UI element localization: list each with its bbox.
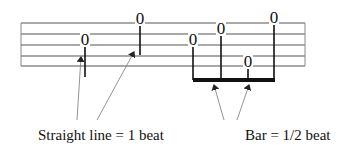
fret-number: 0	[244, 52, 253, 71]
fret-number: 0	[270, 8, 279, 27]
fret-number: 0	[189, 30, 198, 49]
staff	[21, 23, 305, 66]
straight-line-caption: Straight line = 1 beat	[38, 128, 164, 143]
fret-number: 0	[81, 30, 90, 49]
fret-number: 0	[136, 9, 145, 28]
annotation-arrows	[77, 52, 249, 120]
annotation-arrow	[214, 85, 224, 120]
annotation-arrow	[237, 85, 249, 120]
annotation-arrow	[97, 52, 134, 120]
fret-numbers: 000000	[80, 8, 279, 71]
eighth-note-beam	[193, 78, 275, 82]
fret-number: 0	[217, 19, 226, 38]
beam-bar	[193, 78, 275, 82]
bar-caption: Bar = 1/2 beat	[245, 128, 331, 143]
